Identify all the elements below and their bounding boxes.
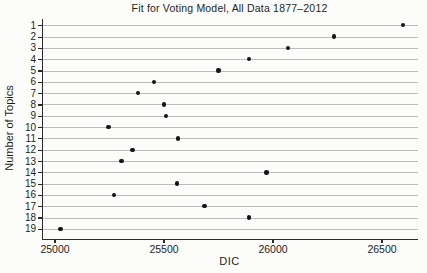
data-point: [176, 136, 180, 140]
data-point: [202, 204, 206, 208]
gridline: [43, 59, 418, 60]
data-point: [332, 34, 336, 38]
gridline: [43, 229, 418, 230]
gridline: [43, 37, 418, 38]
y-tick-label: 17: [18, 201, 36, 212]
data-point: [58, 227, 62, 231]
gridline: [43, 184, 418, 185]
data-point: [164, 114, 168, 118]
y-tick-label: 6: [18, 76, 36, 87]
y-tick-label: 3: [18, 42, 36, 53]
y-axis-tick: [38, 93, 43, 94]
y-axis-tick: [38, 229, 43, 230]
gridline: [43, 82, 418, 83]
gridline: [43, 195, 418, 196]
y-tick-label: 10: [18, 122, 36, 133]
y-axis-tick: [38, 37, 43, 38]
y-axis-tick: [38, 116, 43, 117]
y-axis-tick: [38, 206, 43, 207]
data-point: [247, 57, 251, 61]
y-tick-label: 2: [18, 31, 36, 42]
data-point: [136, 91, 140, 95]
y-axis-tick: [38, 172, 43, 173]
data-point: [130, 148, 134, 152]
y-axis-tick: [38, 184, 43, 185]
data-point: [401, 23, 405, 27]
y-axis-tick: [38, 138, 43, 139]
y-tick-label: 5: [18, 65, 36, 76]
gridline: [43, 127, 418, 128]
gridline: [43, 25, 418, 26]
data-point: [175, 181, 179, 185]
gridline: [43, 150, 418, 151]
x-tick-label: 26500: [360, 243, 404, 255]
data-point: [112, 193, 116, 197]
y-tick-label: 16: [18, 189, 36, 200]
y-axis-tick: [38, 104, 43, 105]
y-tick-label: 14: [18, 167, 36, 178]
y-tick-label: 8: [18, 99, 36, 110]
y-tick-label: 19: [18, 223, 36, 234]
y-axis-tick: [38, 217, 43, 218]
y-axis-tick: [38, 161, 43, 162]
gridline: [43, 172, 418, 173]
gridline: [43, 116, 418, 117]
y-tick-label: 15: [18, 178, 36, 189]
data-point: [286, 46, 290, 50]
y-axis-tick: [38, 127, 43, 128]
y-tick-label: 9: [18, 110, 36, 121]
data-point: [162, 102, 166, 106]
gridline: [43, 138, 418, 139]
gridline: [43, 161, 418, 162]
voting-model-fit-figure: Fit for Voting Model, All Data 1877–2012…: [0, 0, 427, 273]
gridline: [43, 104, 418, 105]
data-point: [152, 80, 156, 84]
y-tick-label: 7: [18, 88, 36, 99]
gridline: [43, 48, 418, 49]
gridline: [43, 71, 418, 72]
plot-area: 1234567891011121314151617181925000255002…: [42, 19, 418, 240]
y-tick-label: 1: [18, 20, 36, 31]
data-point: [119, 159, 123, 163]
y-axis-tick: [38, 25, 43, 26]
y-axis-tick: [38, 59, 43, 60]
chart-title: Fit for Voting Model, All Data 1877–2012: [42, 2, 417, 14]
y-tick-label: 11: [18, 133, 36, 144]
y-axis-tick: [38, 70, 43, 71]
gridline: [43, 93, 418, 94]
gridline: [43, 218, 418, 219]
x-tick-label: 26000: [251, 243, 295, 255]
y-axis-label: Number of Topics: [3, 85, 15, 170]
data-point: [247, 215, 251, 219]
y-axis-tick: [38, 195, 43, 196]
y-axis-tick: [38, 48, 43, 49]
x-tick-label: 25500: [142, 243, 186, 255]
y-tick-label: 4: [18, 54, 36, 65]
y-tick-label: 18: [18, 212, 36, 223]
gridline: [43, 206, 418, 207]
y-tick-label: 13: [18, 156, 36, 167]
data-point: [264, 170, 268, 174]
y-tick-label: 12: [18, 144, 36, 155]
y-axis-tick: [38, 150, 43, 151]
y-axis-tick: [38, 82, 43, 83]
x-axis-label: DIC: [42, 255, 417, 267]
data-point: [216, 68, 220, 72]
data-point: [106, 125, 110, 129]
x-tick-label: 25000: [33, 243, 77, 255]
